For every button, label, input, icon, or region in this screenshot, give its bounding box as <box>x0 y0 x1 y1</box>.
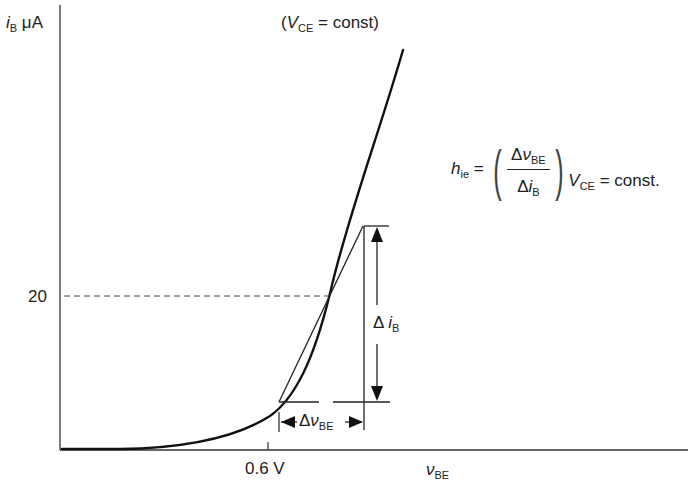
denominator: ΔiB <box>507 170 550 195</box>
vbe-subscript: BE <box>319 420 334 432</box>
cond-symbol: V <box>568 171 579 190</box>
hie-formula: hie = ( ΔνBE ΔiB )VCE = const. <box>451 142 660 198</box>
vce-symbol: V <box>287 13 298 32</box>
y-axis-unit: μA <box>22 13 43 32</box>
cond-subscript: CE <box>580 180 595 192</box>
x-axis-label: νBE <box>426 461 449 478</box>
arrowhead-down <box>371 386 383 401</box>
num-subscript: BE <box>531 154 546 166</box>
const-text: = const) <box>313 13 379 32</box>
tangent-line <box>279 226 363 402</box>
delta-symbol: Δ <box>373 313 383 332</box>
vbe-symbol: ν <box>310 411 319 430</box>
num-delta: Δ <box>511 145 522 164</box>
den-delta: Δ <box>517 177 528 196</box>
delta-symbol: Δ <box>299 411 310 430</box>
delta-ib-label: Δ iB <box>371 314 401 331</box>
den-subscript: B <box>532 186 539 198</box>
y-axis-subscript: B <box>10 22 17 34</box>
characteristic-plot <box>0 0 688 491</box>
num-symbol: ν <box>522 145 531 164</box>
arrowhead-up <box>371 227 383 242</box>
vce-subscript: CE <box>298 22 313 34</box>
x-axis-subscript: BE <box>435 469 450 481</box>
left-paren: ( <box>494 142 502 198</box>
arrowhead-left <box>281 416 295 428</box>
y-tick-label: 20 <box>28 288 47 305</box>
ib-subscript: B <box>392 322 399 334</box>
cond-rest: = const. <box>595 171 660 190</box>
hie-subscript: ie <box>460 168 469 180</box>
y-axis-label: iB μA <box>6 14 43 31</box>
numerator: ΔνBE <box>507 146 550 170</box>
x-tick-label: 0.6 V <box>245 460 285 477</box>
vce-const-label: (VCE = const) <box>281 14 379 31</box>
delta-vbe-label: ΔνBE <box>299 412 334 429</box>
right-paren: ) <box>555 142 563 198</box>
fraction: ΔνBE ΔiB <box>507 146 550 195</box>
arrowhead-right <box>349 416 363 428</box>
equals-sign: = <box>474 159 484 178</box>
x-axis-symbol: ν <box>426 460 435 479</box>
